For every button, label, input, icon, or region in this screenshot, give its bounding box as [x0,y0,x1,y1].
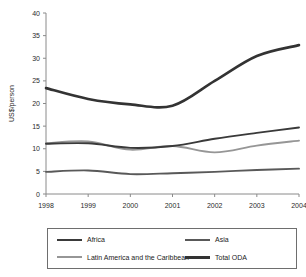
legend-item-asia[interactable]: Asia [176,235,298,244]
y-tick-label: 0 [36,191,40,198]
y-tick-label: 25 [32,77,40,84]
legend-item-africa[interactable]: Africa [48,235,176,244]
x-tick-label: 2000 [123,202,139,209]
legend-label-latin-america-and-the-caribbean: Latin America and the Caribbean [87,253,189,262]
x-tick-label: 1999 [80,202,96,209]
legend-label-asia: Asia [215,235,229,244]
y-tick-label: 40 [32,10,40,17]
x-tick-label: 2001 [165,202,181,209]
legend-label-africa: Africa [87,235,105,244]
y-tick-label: 20 [32,100,40,107]
x-tick-label: 2002 [207,202,223,209]
series-line-total-oda [46,45,299,107]
legend-label-total-oda: Total ODA [215,253,247,262]
chart-legend: AfricaAsiaLatin America and the Caribbea… [47,228,297,269]
legend-item-total-oda[interactable]: Total ODA [176,253,298,262]
x-tick-label: 1998 [38,202,54,209]
x-tick-label: 2003 [249,202,265,209]
y-tick-label: 30 [32,55,40,62]
x-tick-label: 2004 [291,202,306,209]
data-series-group [46,45,299,174]
legend-item-latin-america-and-the-caribbean[interactable]: Latin America and the Caribbean [48,253,176,262]
y-tick-label: 15 [32,123,40,130]
legend-swatch-latin-america-and-the-caribbean [57,256,82,258]
line-chart-figure: 0510152025303540 19981999200020012002200… [0,0,306,277]
y-tick-label: 5 [36,168,40,175]
y-tick-label: 35 [32,32,40,39]
y-axis-tick-labels: 0510152025303540 [32,10,40,198]
legend-swatch-total-oda [185,256,210,259]
legend-swatch-asia [185,239,210,241]
series-line-asia [46,169,299,175]
y-tick-label: 10 [32,145,40,152]
y-axis-title: US$/person [8,85,16,122]
x-axis-tick-labels: 1998199920002001200220032004 [38,202,306,209]
chart-plot-area: 0510152025303540 19981999200020012002200… [0,0,306,225]
legend-swatch-africa [57,239,82,241]
